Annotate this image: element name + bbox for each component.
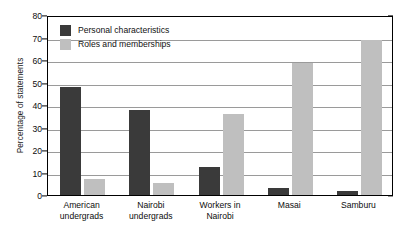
gridline [48, 175, 392, 176]
legend-label: Roles and memberships [78, 39, 171, 49]
x-axis-category-label: Samburu [313, 200, 403, 211]
legend-swatch-icon [60, 25, 71, 36]
bar [153, 183, 174, 195]
x-label-line: Nairobi [175, 211, 265, 222]
bar [292, 63, 313, 195]
bar [199, 167, 220, 195]
y-tick-label: 40 [12, 101, 42, 111]
gridline [48, 62, 392, 63]
y-tick-label: 60 [12, 56, 42, 66]
y-tick-label: 80 [12, 11, 42, 21]
gridline [48, 130, 392, 131]
bar [268, 188, 289, 195]
y-tick-label: 50 [12, 79, 42, 89]
bar [60, 87, 81, 195]
bar-chart-figure: Percentage of statements 010203040506070… [0, 0, 413, 245]
gridline [48, 85, 392, 86]
x-label-line: Samburu [313, 200, 403, 211]
gridline [48, 152, 392, 153]
y-tick-label: 70 [12, 34, 42, 44]
y-tick-label: 10 [12, 169, 42, 179]
legend-item: Personal characteristics [60, 23, 171, 37]
bar [223, 114, 244, 195]
bar [84, 179, 105, 195]
chart-legend: Personal characteristicsRoles and member… [60, 23, 171, 51]
gridline [48, 107, 392, 108]
legend-label: Personal characteristics [78, 25, 169, 35]
bar [129, 110, 150, 196]
y-tick-label: 20 [12, 146, 42, 156]
y-tick-label: 30 [12, 124, 42, 134]
legend-swatch-icon [60, 39, 71, 50]
legend-item: Roles and memberships [60, 37, 171, 51]
bar [337, 191, 358, 196]
bar [361, 40, 382, 195]
